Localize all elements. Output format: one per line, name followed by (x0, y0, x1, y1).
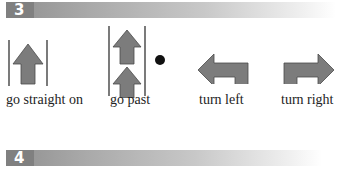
section-header-4: 4 (6, 150, 322, 166)
section-number: 3 (14, 1, 24, 19)
straight-arrow-icon (6, 38, 50, 88)
landmark-dot-icon (154, 54, 166, 66)
turn-left-icon (198, 54, 250, 84)
go-past-icon (106, 26, 148, 98)
label-go-straight-on: go straight on (6, 92, 83, 108)
section-header-3: 3 (6, 2, 336, 18)
section-number: 4 (14, 149, 24, 167)
label-turn-left: turn left (199, 92, 244, 108)
label-go-past: go past (110, 92, 150, 108)
label-turn-right: turn right (281, 92, 334, 108)
turn-right-icon (282, 54, 334, 84)
